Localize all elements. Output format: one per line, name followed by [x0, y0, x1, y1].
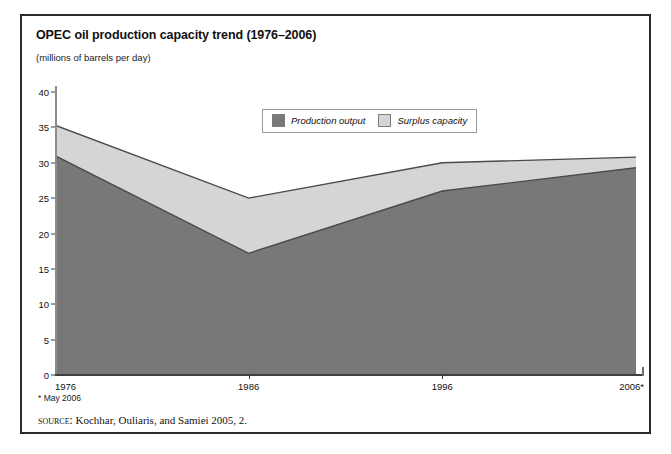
chart-title: OPEC oil production capacity trend (1976…	[36, 28, 316, 42]
y-tick-mark	[51, 339, 55, 340]
area-chart-canvas	[55, 92, 636, 375]
chart-footnote: * May 2006	[38, 393, 81, 403]
source-label: source:	[38, 414, 73, 426]
plot-area: 0510152025303540 1976198619962006*	[55, 92, 636, 375]
chart-source: source: Kochhar, Ouliaris, and Samiei 20…	[38, 414, 247, 426]
y-tick-label: 15	[38, 263, 49, 274]
x-tick-label: 1976	[55, 381, 76, 392]
y-tick-label: 10	[38, 299, 49, 310]
y-tick-label: 5	[44, 334, 49, 345]
y-tick-mark	[51, 92, 55, 93]
y-tick-label: 20	[38, 228, 49, 239]
x-tick-mark	[249, 375, 250, 379]
y-tick-mark	[51, 198, 55, 199]
x-axis-right-cap	[642, 367, 644, 376]
x-tick-label: 2006*	[619, 381, 644, 392]
figure-inner: OPEC oil production capacity trend (1976…	[22, 16, 649, 432]
x-tick-label: 1986	[238, 381, 259, 392]
source-text: Kochhar, Ouliaris, and Samiei 2005, 2.	[73, 414, 247, 426]
x-axis-line	[55, 374, 644, 376]
y-tick-mark	[51, 127, 55, 128]
y-tick-label: 0	[44, 370, 49, 381]
y-axis-line	[55, 86, 57, 375]
y-tick-label: 30	[38, 157, 49, 168]
y-tick-mark	[51, 162, 55, 163]
figure-frame: OPEC oil production capacity trend (1976…	[20, 14, 651, 434]
chart-subtitle: (millions of barrels per day)	[36, 52, 151, 63]
y-tick-mark	[51, 304, 55, 305]
x-tick-label: 1996	[432, 381, 453, 392]
y-tick-mark	[51, 375, 55, 376]
y-tick-mark	[51, 268, 55, 269]
y-tick-label: 35	[38, 122, 49, 133]
y-tick-mark	[51, 233, 55, 234]
y-tick-label: 40	[38, 87, 49, 98]
x-tick-mark	[442, 375, 443, 379]
y-tick-label: 25	[38, 193, 49, 204]
